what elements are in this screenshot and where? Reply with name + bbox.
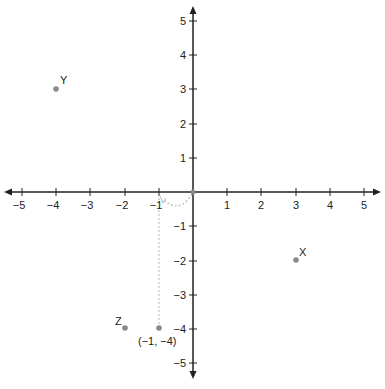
- point-Y: Y: [53, 74, 68, 92]
- y-tick-label: −3: [173, 289, 186, 301]
- point-Z: Z: [115, 315, 128, 331]
- x-axis-left-arrow-icon: [4, 189, 12, 196]
- point-label: Y: [60, 74, 68, 86]
- dashed-arc: [164, 194, 192, 206]
- y-tick-label: 5: [180, 15, 186, 27]
- x-tick-label: 2: [258, 199, 264, 211]
- coordinate-plane: −5 −4 −3 −2 −1 1 2 3 4 5: [0, 0, 385, 389]
- point-marker: [122, 325, 128, 331]
- x-tick-label: 4: [327, 199, 333, 211]
- y-axis-down-arrow-icon: [190, 371, 197, 379]
- x-axis-right-arrow-icon: [373, 189, 381, 196]
- y-tick-label: 3: [180, 83, 186, 95]
- y-tick-label: −5: [173, 357, 186, 369]
- point-origin: [191, 190, 196, 195]
- x-tick-label: 1: [224, 199, 230, 211]
- point-marker: [156, 325, 162, 331]
- y-tick-label: −2: [173, 255, 186, 267]
- y-tick-label: 1: [180, 152, 186, 164]
- x-tick-label: 5: [361, 199, 367, 211]
- point-label: X: [299, 246, 307, 258]
- point-label: Z: [115, 315, 122, 327]
- y-tick-label: 4: [180, 49, 186, 61]
- x-tick-label: −5: [13, 199, 26, 211]
- y-tick-label: −4: [173, 323, 186, 335]
- point-neg1-neg4: (−1, −4): [138, 325, 177, 347]
- point-label: (−1, −4): [138, 335, 177, 347]
- point-marker: [53, 86, 59, 92]
- x-tick-label: −3: [81, 199, 94, 211]
- y-tick-label: 2: [180, 118, 186, 130]
- origin-marker: [191, 190, 196, 195]
- point-marker: [293, 257, 299, 263]
- x-tick-label: −2: [116, 199, 129, 211]
- point-X: X: [293, 246, 307, 263]
- y-axis-up-arrow-icon: [190, 6, 197, 14]
- y-tick-label: −1: [173, 220, 186, 232]
- x-tick-label: 3: [293, 199, 299, 211]
- x-tick-label: −1: [150, 199, 163, 211]
- x-tick-label: −4: [47, 199, 60, 211]
